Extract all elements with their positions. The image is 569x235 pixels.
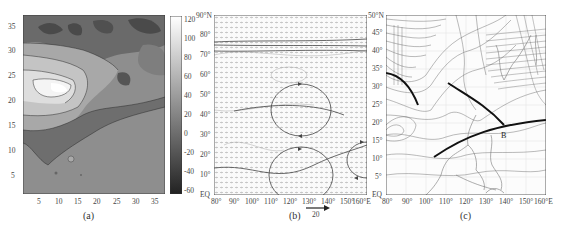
cb-tick: -60 bbox=[184, 187, 194, 195]
a-ytick: 20 bbox=[8, 97, 16, 105]
b-ytick: 90°N bbox=[196, 12, 212, 20]
c-xtick: 80° bbox=[382, 198, 393, 206]
a-ytick: 25 bbox=[8, 72, 16, 80]
b-ytick: 80° bbox=[200, 31, 211, 39]
a-ytick: 35 bbox=[8, 23, 16, 31]
cb-tick: 0 bbox=[184, 130, 188, 138]
b-ytick: 40° bbox=[200, 111, 211, 119]
label-b: B bbox=[501, 131, 506, 140]
a-xtick: 20 bbox=[93, 198, 101, 206]
b-ytick: EQ bbox=[200, 191, 210, 199]
a-xtick: 10 bbox=[55, 198, 63, 206]
c-xtick: 90° bbox=[402, 198, 413, 206]
b-xtick: 100° bbox=[245, 198, 259, 206]
cb-tick: 80 bbox=[184, 54, 192, 62]
b-ytick: 70° bbox=[200, 51, 211, 59]
panel-b-vector-field bbox=[214, 15, 367, 195]
b-xtick: 110° bbox=[264, 198, 278, 206]
c-ytick: 5° bbox=[375, 173, 382, 181]
cb-tick: 20 bbox=[184, 111, 192, 119]
reference-vector-label: 20 bbox=[312, 211, 320, 219]
b-xtick: 90° bbox=[229, 198, 240, 206]
c-xtick: 140° bbox=[499, 198, 513, 206]
c-ytick: 15° bbox=[372, 137, 383, 145]
c-xtick: 100° bbox=[419, 198, 433, 206]
cb-tick: 100 bbox=[184, 35, 195, 43]
a-ytick: 15 bbox=[8, 122, 16, 130]
cb-tick: -20 bbox=[184, 149, 194, 157]
c-ytick: 20° bbox=[372, 119, 383, 127]
c-ytick: 25° bbox=[372, 101, 383, 109]
a-ytick: 5 bbox=[11, 172, 15, 180]
c-xtick: 120° bbox=[459, 198, 473, 206]
a-xtick: 5 bbox=[37, 198, 41, 206]
cb-tick: -40 bbox=[184, 168, 194, 176]
c-ytick: 35° bbox=[372, 65, 383, 73]
b-xtick: 120° bbox=[283, 198, 297, 206]
b-ytick: 30° bbox=[200, 131, 211, 139]
b-xtick: 80° bbox=[211, 198, 222, 206]
c-ytick: 50°N bbox=[368, 12, 384, 20]
c-ytick: 40° bbox=[372, 47, 383, 55]
b-ytick: 60° bbox=[200, 71, 211, 79]
b-xtick: 160°E bbox=[352, 198, 371, 206]
a-xtick: 30 bbox=[132, 198, 140, 206]
c-xtick: 110° bbox=[439, 198, 453, 206]
a-ytick: 10 bbox=[8, 147, 16, 155]
c-xtick: 160°E bbox=[534, 198, 553, 206]
caption-b: (b) bbox=[289, 210, 301, 221]
caption-a: (a) bbox=[83, 210, 94, 221]
b-ytick: 20° bbox=[200, 151, 211, 159]
a-ytick: 30 bbox=[8, 47, 16, 55]
cb-tick: 60 bbox=[184, 73, 192, 81]
c-xtick: 130° bbox=[479, 198, 493, 206]
c-ytick: 10° bbox=[372, 155, 383, 163]
colorbar bbox=[170, 16, 182, 194]
cb-tick: 120 bbox=[184, 16, 195, 24]
c-ytick: EQ bbox=[372, 191, 382, 199]
a-xtick: 15 bbox=[74, 198, 82, 206]
b-ytick: 10° bbox=[200, 171, 211, 179]
c-ytick: 30° bbox=[372, 83, 383, 91]
panel-c-contour-map: B bbox=[386, 15, 546, 195]
c-xtick: 150° bbox=[519, 198, 533, 206]
a-xtick: 25 bbox=[113, 198, 121, 206]
b-ytick: 50° bbox=[200, 91, 211, 99]
a-xtick: 35 bbox=[151, 198, 159, 206]
c-ytick: 45° bbox=[372, 29, 383, 37]
caption-c: (c) bbox=[460, 210, 471, 221]
cb-tick: 40 bbox=[184, 92, 192, 100]
panel-a-heatmap bbox=[23, 15, 165, 194]
